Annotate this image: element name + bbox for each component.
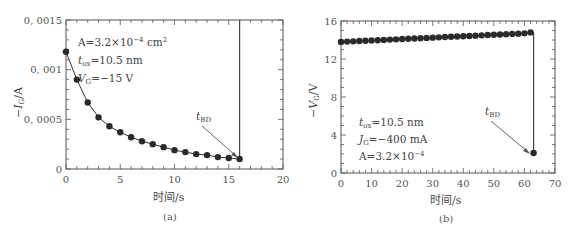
chart-b-tbd-label: tBD	[485, 105, 500, 119]
chart-a-annotation: A=3.2×10−4 cm2 tox=10.5 nm VG=−15 V tBD	[77, 36, 238, 158]
data-point	[417, 35, 423, 41]
data-point	[63, 49, 69, 55]
svg-text:0, 001: 0, 001	[30, 64, 62, 75]
chart-b-param-area: A=3.2×10−4	[358, 150, 425, 162]
data-point	[193, 151, 199, 157]
data-point	[362, 38, 368, 44]
chart-b-tbd-arrow	[491, 121, 528, 152]
data-point	[215, 154, 221, 160]
data-point	[436, 34, 442, 40]
data-point	[460, 33, 466, 39]
data-point	[374, 37, 380, 43]
data-point	[454, 33, 460, 39]
svg-text:70: 70	[549, 178, 562, 189]
data-point	[530, 150, 536, 156]
data-point	[139, 138, 145, 144]
data-point	[150, 141, 156, 147]
svg-text:4: 4	[331, 130, 337, 141]
chart-a-xlabel: 时间/s	[153, 191, 185, 204]
data-point	[356, 38, 362, 44]
svg-text:16: 16	[324, 16, 337, 27]
data-point	[204, 152, 210, 158]
data-point	[478, 32, 484, 38]
data-point	[95, 114, 101, 120]
svg-text:20: 20	[277, 174, 290, 185]
svg-text:30: 30	[426, 178, 439, 189]
data-point	[106, 123, 112, 129]
chart-a-param-tox: tox=10.5 nm	[78, 54, 143, 68]
data-point	[393, 36, 399, 42]
svg-text:0, 0015: 0, 0015	[24, 15, 62, 26]
chart-b-param-tox: tox=10.5 nm	[359, 116, 424, 130]
figure: 0510152000, 00050, 0010, 0015 A=3.2×10−4…	[0, 0, 575, 236]
svg-text:8: 8	[331, 92, 337, 103]
chart-b-annotation: tox=10.5 nm JG=−400 mA A=3.2×10−4 tBD	[357, 105, 530, 162]
data-point	[509, 31, 515, 37]
svg-text:12: 12	[324, 54, 337, 65]
data-point	[448, 34, 454, 40]
data-point	[472, 32, 478, 38]
data-point	[387, 36, 393, 42]
chart-a: 0510152000, 00050, 0010, 0015 A=3.2×10−4…	[12, 15, 289, 223]
svg-text:20: 20	[396, 178, 409, 189]
data-point	[226, 155, 232, 161]
svg-text:0: 0	[331, 168, 337, 179]
data-point	[485, 32, 491, 38]
data-point	[430, 34, 436, 40]
svg-text:40: 40	[457, 178, 470, 189]
chart-b-ylabel: −VG/V	[307, 83, 321, 118]
chart-b-xlabel: 时间/s	[430, 194, 462, 207]
data-point	[350, 38, 356, 44]
chart-a-tbd-arrow	[202, 126, 236, 156]
data-point	[527, 29, 533, 35]
svg-text:5: 5	[117, 174, 123, 185]
data-point	[160, 144, 166, 150]
data-point	[85, 99, 91, 105]
chart-b-series	[338, 29, 537, 156]
data-point	[182, 149, 188, 155]
chart-b: 0102030405060700481216 tox=10.5 nm JG=−4…	[307, 16, 561, 225]
data-point	[491, 32, 497, 38]
chart-a-ylabel: −IG/A	[12, 86, 26, 118]
data-point	[405, 36, 411, 42]
svg-text:10: 10	[168, 174, 181, 185]
data-point	[171, 147, 177, 153]
svg-text:15: 15	[222, 174, 235, 185]
data-point	[344, 38, 350, 44]
data-point	[381, 37, 387, 43]
data-point	[521, 30, 527, 36]
svg-text:0, 0005: 0, 0005	[24, 114, 62, 125]
chart-a-caption: (a)	[163, 211, 177, 222]
svg-text:60: 60	[518, 178, 531, 189]
data-point	[503, 31, 509, 37]
svg-text:0: 0	[56, 164, 62, 175]
data-point	[411, 35, 417, 41]
data-point	[497, 31, 503, 37]
chart-b-param-jg: JG=−400 mA	[357, 133, 428, 147]
data-point	[399, 36, 405, 42]
svg-text:10: 10	[365, 178, 378, 189]
data-point	[423, 35, 429, 41]
chart-a-param-area: A=3.2×10−4 cm2	[77, 36, 167, 48]
data-point	[368, 37, 374, 43]
svg-text:0: 0	[63, 174, 69, 185]
data-point	[117, 129, 123, 135]
data-point	[236, 156, 242, 162]
chart-b-caption: (b)	[439, 213, 453, 224]
chart-a-tbd-label: tBD	[196, 110, 211, 124]
data-point	[338, 39, 344, 45]
chart-a-param-vg: VG=−15 V	[78, 72, 133, 86]
data-point	[442, 34, 448, 40]
data-point	[466, 33, 472, 39]
svg-text:0: 0	[338, 178, 344, 189]
svg-text:50: 50	[487, 178, 500, 189]
data-point	[515, 30, 521, 36]
data-point	[128, 134, 134, 140]
